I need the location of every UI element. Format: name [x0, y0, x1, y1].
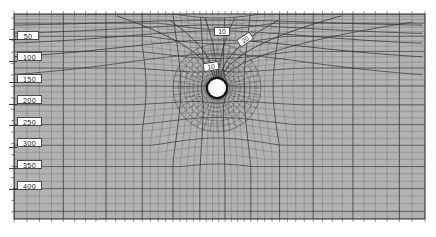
axis-tick-label-400: 400 [17, 181, 42, 190]
axis-tick-label-350: 350 [17, 160, 42, 169]
axis-tick-label-200: 200 [17, 95, 42, 104]
contour-label-10-upper: 10 [214, 27, 230, 36]
mesh-figure: 50 100 150 200 250 300 350 400 10 20 10 [0, 0, 436, 237]
axis-tick-label-300: 300 [17, 138, 42, 147]
axis-tick-label-150: 150 [17, 74, 42, 83]
axis-tick-label-100: 100 [17, 52, 42, 61]
axis-tick-label-250: 250 [17, 117, 42, 126]
axis-tick-label-50: 50 [17, 31, 39, 40]
